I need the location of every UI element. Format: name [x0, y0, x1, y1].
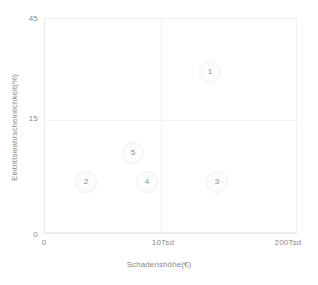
gridline-vertical-10tsd: [161, 18, 162, 233]
data-bubble-2[interactable]: 2: [75, 171, 97, 193]
y-axis-title-text: Eintrittswahrscheinlichkeit(%): [9, 53, 18, 203]
gridline-horizontal-15: [44, 120, 297, 121]
x-tick-label-0: 0: [30, 238, 58, 247]
risk-matrix-chart: 45 15 0 0 10Tsd 200Tsd Eintrittswahrsche…: [0, 0, 318, 285]
data-bubble-5[interactable]: 5: [122, 142, 144, 164]
x-tick-label-200tsd: 200Tsd: [264, 238, 312, 247]
x-axis-title: Schadenshöhe(€): [0, 260, 318, 269]
data-bubble-4[interactable]: 4: [136, 171, 158, 193]
y-axis-title: Eintrittswahrscheinlichkeit(%): [8, 52, 19, 202]
data-bubble-1[interactable]: 1: [199, 61, 221, 83]
plot-frame-right: [296, 18, 297, 233]
plot-frame-top: [44, 18, 297, 19]
y-axis-line: [44, 18, 45, 233]
plot-area: [44, 18, 297, 233]
data-bubble-3[interactable]: 3: [206, 171, 228, 193]
y-tick-label-45: 45: [10, 14, 38, 23]
x-axis-line: [44, 233, 297, 234]
x-tick-label-10tsd: 10Tsd: [142, 238, 184, 247]
